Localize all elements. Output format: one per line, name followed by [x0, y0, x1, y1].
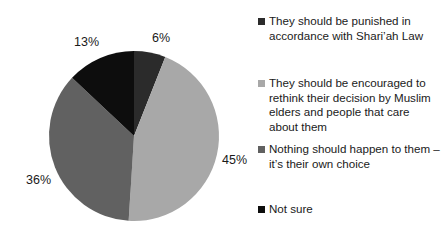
pie-slice-group: [49, 51, 219, 221]
legend-item-label-1: They should be punished in accordance wi…: [269, 14, 440, 43]
legend-swatch-encouraged: [258, 80, 265, 87]
legend-item-label-4: Not sure: [269, 202, 313, 217]
chart-legend: They should be punished in accordance wi…: [255, 0, 442, 238]
legend-swatch-punished: [258, 18, 265, 25]
pie-chart-figure: 6%45%36%13% They should be punished in a…: [0, 0, 442, 238]
legend-item-2[interactable]: They should be encouraged to rethink the…: [258, 76, 440, 134]
legend-swatch-nothing: [258, 146, 265, 153]
pie-svg: [0, 0, 250, 238]
legend-item-3[interactable]: Nothing should happen to them – it’s the…: [258, 142, 440, 171]
legend-item-label-3: Nothing should happen to them – it’s the…: [269, 142, 440, 171]
legend-swatch-not-sure: [258, 206, 265, 213]
pie-value-label-3: 36%: [26, 173, 51, 187]
pie-plot-area: 6%45%36%13%: [0, 0, 250, 238]
legend-item-label-2: They should be encouraged to rethink the…: [269, 76, 440, 134]
legend-item-4[interactable]: Not sure: [258, 202, 440, 217]
pie-value-label-2: 45%: [222, 153, 247, 167]
legend-item-1[interactable]: They should be punished in accordance wi…: [258, 14, 440, 43]
pie-value-label-1: 6%: [152, 31, 170, 45]
pie-value-label-4: 13%: [74, 35, 99, 49]
